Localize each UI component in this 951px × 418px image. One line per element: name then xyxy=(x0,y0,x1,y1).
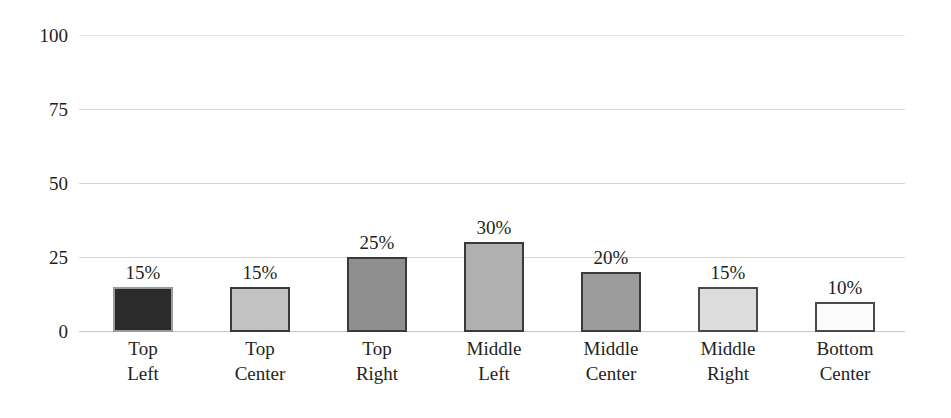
xlabel-line-1: Bottom xyxy=(786,336,904,361)
bar-value-label: 15% xyxy=(684,263,772,282)
bar-value-label: 25% xyxy=(333,233,421,252)
xlabel-line-2: Center xyxy=(786,361,904,386)
xlabel-top-center: Top Center xyxy=(201,336,319,386)
ytick-label-0: 0 xyxy=(0,322,68,341)
bar-rect-top-center[interactable] xyxy=(230,287,290,332)
bar-chart: 100 75 50 25 0 15% 15% 25% 30% 20% 15% xyxy=(0,0,951,418)
bar-value-label: 20% xyxy=(567,248,655,267)
bar-rect-middle-center[interactable] xyxy=(581,272,641,332)
xlabel-line-1: Middle xyxy=(552,336,670,361)
xlabel-line-1: Middle xyxy=(435,336,553,361)
bar-rect-bottom-center[interactable] xyxy=(815,302,875,332)
xlabel-middle-left: Middle Left xyxy=(435,336,553,386)
xlabel-middle-right: Middle Right xyxy=(669,336,787,386)
bar-value-label: 15% xyxy=(99,263,187,282)
bar-series: 15% 15% 25% 30% 20% 15% 10% xyxy=(79,35,905,332)
ytick-label-50: 50 xyxy=(0,174,68,193)
bar-rect-middle-right[interactable] xyxy=(698,287,758,332)
xlabel-line-2: Center xyxy=(201,361,319,386)
xlabel-line-1: Middle xyxy=(669,336,787,361)
ytick-label-25: 25 xyxy=(0,248,68,267)
bar-rect-middle-left[interactable] xyxy=(464,242,524,332)
xlabel-bottom-center: Bottom Center xyxy=(786,336,904,386)
x-axis-labels: Top Left Top Center Top Right Middle Lef… xyxy=(79,336,905,406)
xlabel-line-1: Top xyxy=(201,336,319,361)
ytick-label-75: 75 xyxy=(0,100,68,119)
xlabel-top-right: Top Right xyxy=(318,336,436,386)
xlabel-line-2: Right xyxy=(669,361,787,386)
xlabel-line-2: Left xyxy=(84,361,202,386)
bar-value-label: 30% xyxy=(450,218,538,237)
xlabel-line-2: Center xyxy=(552,361,670,386)
xlabel-line-1: Top xyxy=(318,336,436,361)
bar-value-label: 10% xyxy=(801,278,889,297)
bar-rect-top-right[interactable] xyxy=(347,257,407,332)
bar-rect-top-left[interactable] xyxy=(113,287,173,332)
xlabel-line-2: Right xyxy=(318,361,436,386)
xlabel-middle-center: Middle Center xyxy=(552,336,670,386)
bar-value-label: 15% xyxy=(216,263,304,282)
xlabel-top-left: Top Left xyxy=(84,336,202,386)
xlabel-line-1: Top xyxy=(84,336,202,361)
xlabel-line-2: Left xyxy=(435,361,553,386)
ytick-label-100: 100 xyxy=(0,26,68,45)
